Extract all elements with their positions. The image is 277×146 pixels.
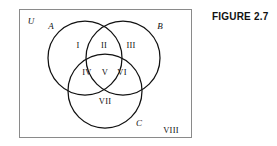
circle-set-a bbox=[48, 21, 122, 95]
figure-container: U A B C I II III IV V VI VII VIII FIGURE… bbox=[0, 0, 277, 146]
universal-set-label: U bbox=[28, 17, 35, 26]
set-label-c: C bbox=[136, 119, 142, 128]
set-label-b: B bbox=[157, 22, 163, 31]
region-label-iv: IV bbox=[82, 68, 91, 77]
region-label-iii: III bbox=[126, 41, 135, 50]
region-label-i: I bbox=[76, 41, 79, 50]
region-label-vii: VII bbox=[99, 97, 111, 106]
region-label-vi: VI bbox=[117, 68, 126, 77]
figure-caption: FIGURE 2.7 bbox=[212, 11, 268, 22]
region-label-v: V bbox=[102, 68, 108, 77]
region-label-ii: II bbox=[101, 41, 107, 50]
set-label-a: A bbox=[48, 22, 54, 31]
region-label-viii: VIII bbox=[163, 126, 178, 135]
